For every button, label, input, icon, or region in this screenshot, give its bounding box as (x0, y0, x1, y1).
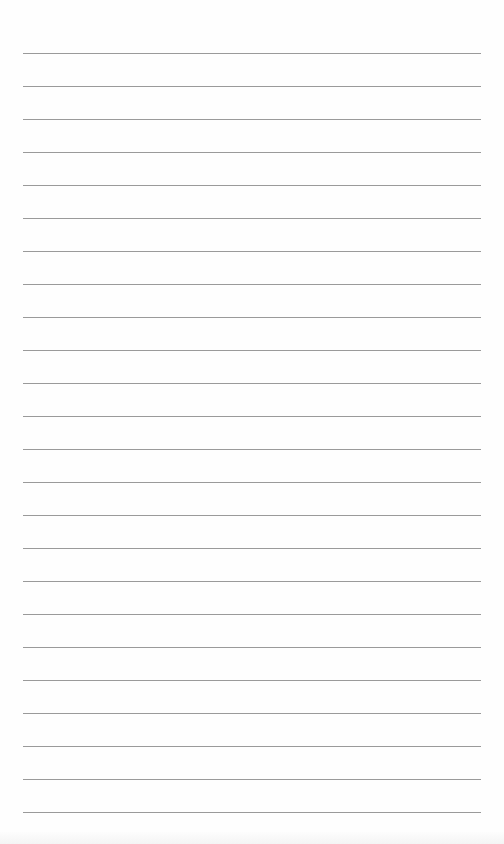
ruled-line (23, 284, 481, 285)
ruled-line (23, 383, 481, 384)
ruled-line (23, 251, 481, 252)
ruled-line (23, 185, 481, 186)
ruled-line (23, 746, 481, 747)
ruled-line (23, 449, 481, 450)
lined-paper-page (0, 0, 504, 844)
ruled-line (23, 119, 481, 120)
ruled-line (23, 317, 481, 318)
ruled-line (23, 53, 481, 54)
ruled-line (23, 515, 481, 516)
ruled-line (23, 680, 481, 681)
ruled-line (23, 350, 481, 351)
ruled-line (23, 218, 481, 219)
ruled-line (23, 713, 481, 714)
ruled-line (23, 647, 481, 648)
ruled-line (23, 581, 481, 582)
ruled-line (23, 614, 481, 615)
page-bottom-edge (0, 832, 504, 844)
ruled-line (23, 548, 481, 549)
ruled-line (23, 86, 481, 87)
ruled-line (23, 482, 481, 483)
ruled-line (23, 779, 481, 780)
ruled-line (23, 416, 481, 417)
ruled-line (23, 812, 481, 813)
ruled-line (23, 152, 481, 153)
